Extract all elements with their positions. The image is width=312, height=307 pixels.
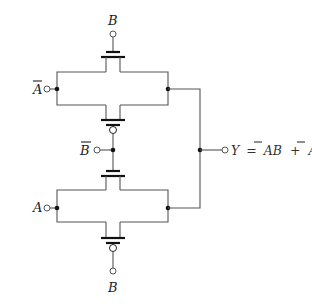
output-equation: Y = AB + AB <box>231 143 312 158</box>
xor-circuit-diagram: B A B <box>0 0 312 307</box>
output-terminal <box>222 147 228 153</box>
b-bar-label: B <box>79 143 90 158</box>
a-junction <box>55 206 60 211</box>
bottom-box-left <box>57 190 106 222</box>
a-bar-label: A <box>32 82 42 97</box>
top-gate-label: B <box>107 13 118 28</box>
pmos-bottom-bubble <box>110 245 117 252</box>
b-bar-terminal <box>94 147 100 153</box>
top-box-left <box>57 72 106 105</box>
pmos-top-bubble <box>110 127 117 134</box>
b-bar-input: B <box>79 142 115 158</box>
a-terminal <box>44 205 50 211</box>
a-bar-terminal <box>44 86 50 92</box>
top-box-right <box>120 72 168 105</box>
bottom-gate-terminal <box>110 268 116 274</box>
a-label: A <box>32 200 42 215</box>
output-bus <box>168 89 200 208</box>
top-gate-terminal <box>110 31 116 37</box>
b-bar-junction <box>111 148 116 153</box>
bottom-gate-label: B <box>107 280 118 295</box>
bottom-transmission-gate: B A <box>32 171 170 295</box>
output-node: Y = AB + AB <box>168 89 312 208</box>
bottom-box-right <box>120 190 168 222</box>
a-bar-junction <box>55 87 60 92</box>
top-transmission-gate: B A <box>32 13 170 171</box>
